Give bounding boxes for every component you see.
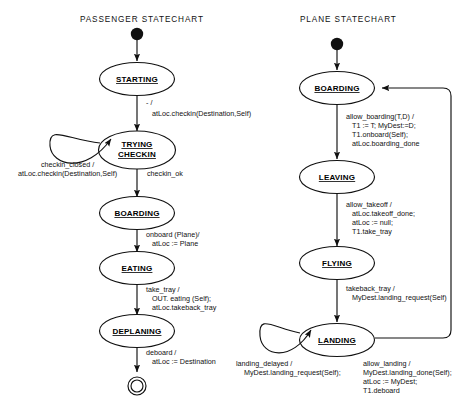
passenger-label-starting-trying-line1: - / <box>146 99 152 108</box>
passenger-state-deplaning-label: DEPLANING <box>113 327 162 336</box>
passenger-initial-state <box>131 28 143 40</box>
diagram-svg: STARTING TRYING CHECKIN BOARDING EATING … <box>0 0 474 409</box>
plane-initial-state <box>331 38 343 50</box>
plane-state-leaving-label: LEAVING <box>319 173 355 182</box>
passenger-label-deboard-line2: atLoc := Destination <box>152 358 216 367</box>
plane-state-landing-label: LANDING <box>318 336 356 345</box>
plane-label-landing-delayed-line2: MyDest.landing_request(Self); <box>244 369 341 378</box>
plane-state-boarding-label: BOARDING <box>314 84 359 93</box>
plane-label-allow-boarding-line4: atLoc.boarding_done <box>352 140 420 149</box>
passenger-state-trying-label-line1: TRYING <box>121 140 152 149</box>
passenger-state-trying-label-line2: CHECKIN <box>118 150 156 159</box>
passenger-chart-title: PASSENGER STATECHART <box>80 15 204 24</box>
passenger-state-eating-label: EATING <box>122 264 153 273</box>
passenger-label-checkin-closed-line2: atLoc.checkin(Destination,Self) <box>18 170 117 179</box>
passenger-label-starting-trying-line2: atLoc.checkin(Destination,Self) <box>152 110 251 119</box>
plane-label-takeback-tray-line2: MyDest.landing_request(Self) <box>352 294 447 303</box>
plane-state-flying-label: FLYING <box>322 259 352 268</box>
passenger-state-starting-label: STARTING <box>116 75 158 84</box>
passenger-label-checkin-ok: checkin_ok <box>147 170 183 179</box>
plane-label-allow-takeoff-line4: T1.take_tray <box>352 228 392 237</box>
passenger-final-state-inner <box>131 380 143 392</box>
passenger-state-boarding-label: BOARDING <box>114 209 159 218</box>
passenger-label-onboard-line2: atLoc := Plane <box>152 240 198 249</box>
plane-label-allow-landing-line4: T1.deboard <box>363 387 400 396</box>
statechart-diagram-canvas: STARTING TRYING CHECKIN BOARDING EATING … <box>0 0 474 409</box>
plane-chart-title: PLANE STATECHART <box>300 15 397 24</box>
passenger-label-take-tray-line3: atLoc.takeback_tray <box>152 304 216 313</box>
